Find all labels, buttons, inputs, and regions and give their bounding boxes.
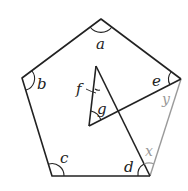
label-f: f <box>75 80 84 98</box>
label-e: e <box>152 72 161 90</box>
label-b: b <box>37 75 47 93</box>
angle-arc-a <box>90 27 112 32</box>
line-apex-to-bottom-right <box>96 66 150 176</box>
label-x: x <box>145 143 153 159</box>
angle-arc-d <box>138 164 144 176</box>
pentagon-angle-diagram: a b c d e f g x y <box>0 0 188 191</box>
angle-arc-f <box>95 89 100 90</box>
angle-arc-x <box>144 163 154 164</box>
f-leader-line <box>86 89 96 93</box>
angle-arc-e <box>169 72 171 85</box>
label-g: g <box>97 100 107 118</box>
label-a: a <box>96 35 105 53</box>
line-apex-to-lower-left <box>89 66 96 126</box>
label-y: y <box>161 91 171 107</box>
label-d: d <box>124 158 134 176</box>
label-c: c <box>60 149 69 167</box>
